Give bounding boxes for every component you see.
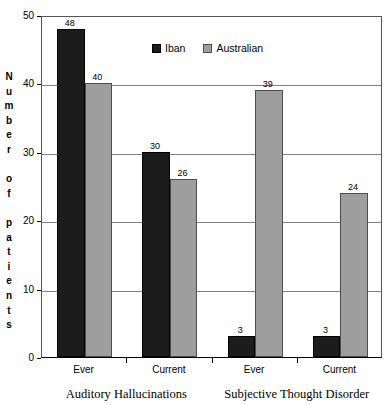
- x-axis-group-label: Auditory Hallucinations: [41, 387, 212, 402]
- bar-chart: Number of patients 01020304050 484030263…: [0, 0, 391, 405]
- x-axis-tick-mark: [212, 358, 213, 363]
- x-axis-category-label: Current: [126, 364, 211, 376]
- x-axis-category-label: Ever: [212, 364, 297, 376]
- x-axis-tick-mark: [126, 358, 127, 363]
- x-axis-category-label: Ever: [41, 364, 126, 376]
- x-axis-tick-mark: [297, 358, 298, 363]
- x-axis: EverCurrentEverCurrentAuditory Hallucina…: [0, 0, 391, 405]
- x-axis-group-label: Subjective Thought Disorder: [212, 387, 383, 402]
- x-axis-category-label: Current: [297, 364, 382, 376]
